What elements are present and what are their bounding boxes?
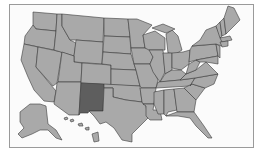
state-colorado[interactable] bbox=[81, 63, 111, 85]
state-alaska[interactable] bbox=[18, 104, 62, 140]
state-north-dakota[interactable] bbox=[104, 18, 130, 37]
state-hawaii[interactable] bbox=[64, 117, 99, 142]
state-new-mexico[interactable] bbox=[79, 83, 104, 115]
state-kansas[interactable] bbox=[111, 69, 140, 86]
state-south-dakota[interactable] bbox=[103, 36, 131, 54]
state-arizona[interactable] bbox=[54, 82, 81, 115]
state-wisconsin[interactable] bbox=[143, 31, 165, 50]
us-map bbox=[0, 0, 259, 154]
state-arkansas[interactable] bbox=[140, 88, 156, 104]
state-michigan[interactable] bbox=[166, 30, 182, 54]
state-wyoming[interactable] bbox=[74, 40, 103, 64]
state-maine[interactable] bbox=[224, 6, 240, 34]
state-florida[interactable] bbox=[166, 112, 212, 138]
state-washington[interactable] bbox=[33, 12, 57, 31]
state-connecticut[interactable] bbox=[220, 41, 228, 47]
state-ohio[interactable] bbox=[172, 50, 190, 70]
